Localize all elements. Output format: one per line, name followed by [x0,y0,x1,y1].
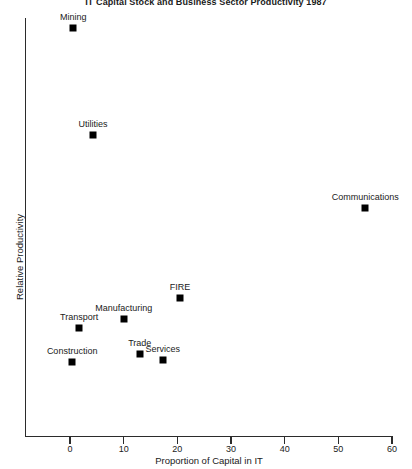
x-axis-tick-label: 60 [387,444,397,454]
x-axis-tick [69,437,70,444]
data-point-marker[interactable] [69,359,76,366]
data-point-marker[interactable] [362,205,369,212]
data-point-label: Services [146,344,181,354]
data-point-marker[interactable] [90,132,97,139]
data-point-label: Utilities [79,119,108,129]
x-axis-tick-label: 10 [119,444,129,454]
data-point-label: Mining [60,12,87,22]
x-axis-tick-label: 20 [172,444,182,454]
x-axis-tick [177,437,178,444]
plot-area: 0102030405060 MiningUtilitiesCommunicati… [0,0,412,469]
x-axis-tick [230,437,231,444]
data-point-marker[interactable] [76,325,83,332]
data-point-marker[interactable] [120,315,127,322]
y-axis-line [25,18,26,437]
x-axis-tick-label: 30 [226,444,236,454]
data-point-label: Transport [60,312,98,322]
data-point-marker[interactable] [70,25,77,32]
data-point-marker[interactable] [177,295,184,302]
x-axis-tick [284,437,285,444]
data-point-label: Manufacturing [95,303,152,313]
x-axis-tick-label: 0 [67,444,72,454]
x-axis-tick [338,437,339,444]
y-axis-title: Relative Productivity [14,214,25,300]
data-point-label: FIRE [170,282,191,292]
x-axis-tick [123,437,124,444]
x-axis-tick-label: 40 [280,444,290,454]
data-point-label: Communications [332,192,399,202]
chart-figure: IT Capital Stock and Business Sector Pro… [0,0,412,469]
x-axis-tick-label: 50 [333,444,343,454]
data-point-label: Construction [47,346,98,356]
data-point-marker[interactable] [136,350,143,357]
x-axis-tick [391,437,392,444]
x-axis-title: Proportion of Capital in IT [25,455,393,466]
data-point-marker[interactable] [159,356,166,363]
